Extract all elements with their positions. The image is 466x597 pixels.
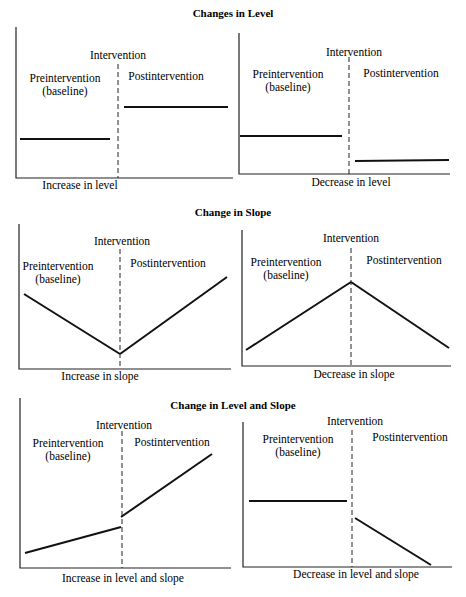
- preintervention-label: Preintervention: [23, 260, 94, 272]
- intervention-label: Intervention: [327, 415, 383, 427]
- intervention-label: Intervention: [326, 46, 382, 58]
- preintervention-trend: [24, 294, 120, 354]
- panel-caption: Increase in level: [42, 179, 117, 191]
- preintervention-label: Preintervention: [33, 437, 104, 449]
- baseline-label: (baseline): [42, 85, 88, 98]
- postintervention-label: Postintervention: [130, 257, 206, 269]
- section-title: Change in Level and Slope: [170, 399, 295, 411]
- postintervention-trend: [121, 454, 212, 517]
- postintervention-label: Postintervention: [134, 436, 210, 448]
- baseline-label: (baseline): [35, 273, 81, 286]
- baseline-label: (baseline): [45, 450, 91, 463]
- section-title: Change in Slope: [195, 206, 272, 218]
- preintervention-label: Preintervention: [253, 68, 324, 80]
- intervention-label: Intervention: [94, 235, 150, 247]
- postintervention-label: Postintervention: [363, 67, 439, 79]
- interrupted-time-series-figure: Changes in LevelInterventionPreintervent…: [0, 0, 466, 597]
- postintervention-label: Postintervention: [372, 431, 448, 443]
- intervention-label: Intervention: [96, 419, 152, 431]
- intervention-label: Intervention: [323, 232, 379, 244]
- section-title: Changes in Level: [193, 7, 274, 19]
- preintervention-label: Preintervention: [263, 433, 334, 445]
- panel-caption: Increase in level and slope: [62, 572, 184, 585]
- axes: [242, 230, 451, 366]
- postintervention-trend: [120, 277, 227, 354]
- postintervention-trend: [355, 518, 431, 565]
- postintervention-trend: [355, 160, 449, 161]
- postintervention-trend: [351, 282, 449, 348]
- postintervention-label: Postintervention: [128, 70, 204, 82]
- panel-caption: Decrease in slope: [313, 368, 394, 381]
- panel-caption: Increase in slope: [61, 370, 138, 383]
- preintervention-label: Preintervention: [251, 256, 322, 268]
- preintervention-trend: [246, 282, 351, 350]
- postintervention-label: Postintervention: [366, 254, 442, 266]
- preintervention-label: Preintervention: [30, 72, 101, 84]
- baseline-label: (baseline): [265, 81, 311, 94]
- panel-caption: Decrease in level: [311, 176, 390, 188]
- preintervention-trend: [25, 527, 121, 553]
- baseline-label: (baseline): [263, 269, 309, 282]
- panel-caption: Decrease in level and slope: [293, 568, 419, 581]
- intervention-label: Intervention: [90, 49, 146, 61]
- baseline-label: (baseline): [275, 446, 321, 459]
